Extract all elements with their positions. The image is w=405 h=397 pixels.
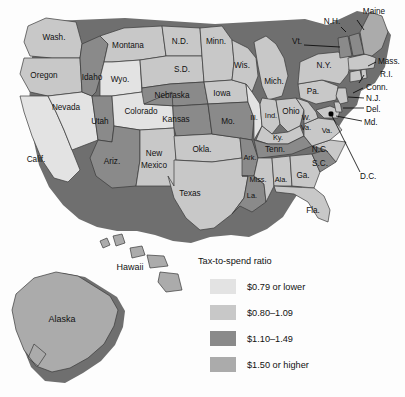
label-SC: S.C. [312, 159, 328, 168]
tax-to-spend-choropleth-map: Wash. Oregon Calif. Nevada Idaho Montana… [0, 0, 405, 397]
label-DC: D.C. [360, 172, 376, 181]
legend-row: $1.10–1.49 [196, 330, 346, 347]
label-MA: Mass. [378, 57, 400, 66]
legend-swatch-3 [210, 357, 236, 372]
legend-swatch-2 [210, 331, 236, 346]
label-MT: Montana [112, 41, 144, 50]
legend-label-2: $1.10–1.49 [247, 334, 293, 344]
legend-row: $1.50 or higher [196, 356, 346, 373]
legend-label-0: $0.79 or lower [247, 282, 305, 292]
state-HI2 [113, 234, 125, 246]
label-MD: Md. [364, 118, 378, 127]
label-RI: R.I. [380, 70, 393, 79]
label-ND: N.D. [172, 37, 188, 46]
label-NE: Nebraska [154, 91, 189, 100]
state-HI [100, 238, 110, 248]
label-TN: Tenn. [265, 145, 285, 154]
label-MO: Mo. [221, 117, 235, 126]
label-MS: Miss. [249, 175, 266, 184]
label-TX: Texas [179, 189, 200, 198]
label-NM-line2: Mexico [141, 161, 167, 170]
label-ME: Maine [363, 7, 386, 16]
label-AZ: Ariz. [104, 157, 120, 166]
label-GA: Ga. [296, 171, 309, 180]
label-MI: Mich. [264, 77, 284, 86]
map-legend: Tax-to-spend ratio $0.79 or lower $0.80–… [196, 256, 346, 382]
dc-marker-dot [329, 112, 334, 117]
legend-swatch-1 [210, 305, 236, 320]
state-CT [350, 70, 362, 82]
label-OK: Okla. [192, 145, 211, 154]
label-HI: Hawaii [116, 262, 143, 272]
legend-row: $0.79 or lower [196, 278, 346, 295]
label-IN: Ind. [265, 111, 277, 120]
label-LA: La. [247, 191, 257, 200]
label-SD: S.D. [174, 65, 190, 74]
legend-label-1: $0.80–1.09 [247, 308, 293, 318]
label-NJ: N.J. [366, 94, 381, 103]
label-WA: Wash. [43, 33, 66, 42]
state-HI5 [158, 272, 182, 292]
legend-row: $0.80–1.09 [196, 304, 346, 321]
label-ID: Idaho [82, 73, 103, 82]
label-AR: Ark. [243, 153, 256, 162]
label-NY: N.Y. [317, 61, 332, 70]
label-NC: N.C. [312, 145, 328, 154]
legend-label-3: $1.50 or higher [247, 360, 309, 370]
label-UT: Utah [91, 117, 109, 126]
label-WI: Wis. [234, 61, 250, 70]
label-CA: Calif. [27, 155, 46, 164]
state-HI3 [130, 246, 145, 258]
label-NH: N.H. [324, 17, 340, 26]
label-CT: Conn. [366, 83, 388, 92]
label-FL: Fla. [306, 206, 320, 215]
label-NV: Nevada [52, 103, 81, 112]
label-OR: Oregon [30, 71, 58, 80]
label-AK: Alaska [48, 314, 75, 324]
label-IL: Ill. [250, 113, 257, 122]
label-DE: Del. [366, 105, 381, 114]
legend-title: Tax-to-spend ratio [198, 256, 346, 266]
label-WV-line2: Va. [301, 123, 312, 132]
label-KY: Ky. [273, 133, 283, 142]
label-VA: Va. [322, 126, 333, 135]
legend-swatch-0 [210, 279, 236, 294]
label-IA: Iowa [213, 89, 231, 98]
label-AL: Ala. [275, 175, 288, 184]
label-CO: Colorado [124, 107, 158, 116]
label-WV-line1: W. [302, 113, 311, 122]
label-KS: Kansas [162, 115, 189, 124]
label-VT: Vt. [292, 37, 302, 46]
state-RI [361, 69, 367, 79]
label-MN: Minn. [206, 37, 226, 46]
label-OH: Ohio [282, 107, 300, 116]
label-NM-line1: New [146, 149, 162, 158]
label-PA: Pa. [307, 87, 319, 96]
state-HI4 [147, 255, 168, 268]
label-WY: Wyo. [111, 75, 130, 84]
